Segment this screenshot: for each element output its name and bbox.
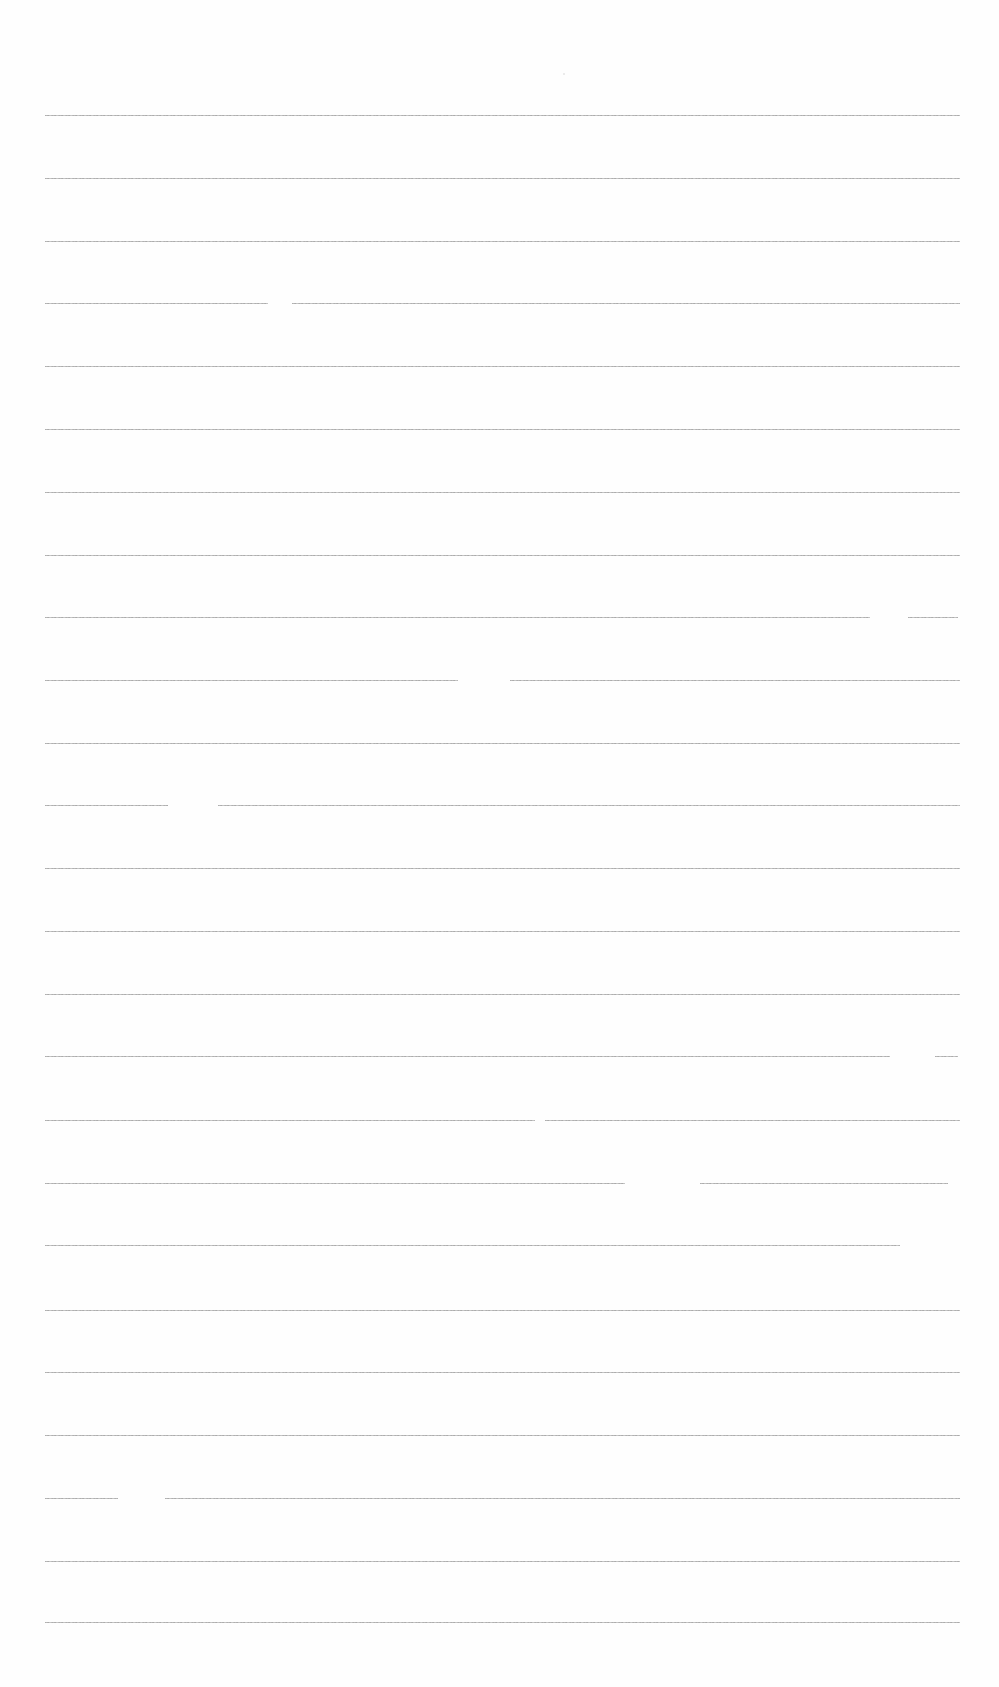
ruled-line [45,178,960,179]
ruled-line [545,1120,960,1121]
ruled-line [218,805,960,806]
ruled-line [45,1183,625,1184]
ruled-line [45,994,960,995]
ruled-line [45,1622,960,1623]
ruled-line [45,1310,960,1311]
ruled-line [45,555,960,556]
ruled-line [45,492,960,493]
ruled-line [45,868,960,869]
ruled-line [45,115,960,116]
ruled-line [935,1056,958,1057]
paper-speck [563,73,565,75]
ruled-line [45,1056,890,1057]
ruled-line [45,1245,900,1246]
ruled-line [510,680,960,681]
ruled-line [45,429,960,430]
ruled-line [45,1561,960,1562]
ruled-line [45,366,960,367]
ruled-line [165,1498,960,1499]
ruled-line [45,617,870,618]
ruled-line [45,931,960,932]
ruled-line [45,1498,118,1499]
ruled-line [45,743,960,744]
lined-paper-sheet [0,0,999,1687]
ruled-line [45,241,960,242]
ruled-line [45,1435,960,1436]
ruled-line [292,303,960,304]
ruled-line [45,1372,960,1373]
ruled-line [45,805,168,806]
ruled-line [700,1183,948,1184]
ruled-line [45,303,268,304]
ruled-line [45,680,458,681]
ruled-line [908,617,958,618]
ruled-line [45,1120,535,1121]
